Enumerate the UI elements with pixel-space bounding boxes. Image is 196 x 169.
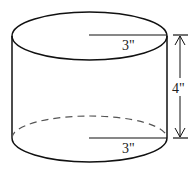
cylinder-diagram: 3" 3" 4" [0,0,196,169]
top-radius-label: 3" [122,38,135,53]
top-ellipse [12,12,167,60]
bottom-ellipse-back [12,116,167,138]
bottom-ellipse-front [12,138,167,162]
height-label: 4" [172,81,185,96]
bottom-radius-label: 3" [122,141,135,156]
